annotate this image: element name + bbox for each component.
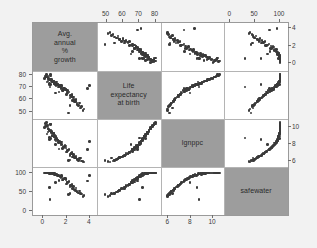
data-point bbox=[54, 181, 57, 184]
data-point bbox=[110, 34, 113, 37]
axis-tick-mark bbox=[254, 19, 255, 22]
data-point bbox=[183, 50, 186, 53]
axis-tick-label-y-lgnppc: 8 bbox=[292, 140, 296, 147]
data-point bbox=[48, 138, 51, 141]
data-point bbox=[136, 148, 139, 151]
axis-tick-mark bbox=[29, 111, 32, 112]
data-point bbox=[203, 54, 206, 57]
data-point bbox=[200, 82, 203, 85]
data-point bbox=[252, 107, 255, 110]
data-point bbox=[250, 112, 253, 115]
data-point bbox=[275, 48, 278, 51]
data-point bbox=[265, 91, 268, 94]
data-point bbox=[208, 78, 211, 81]
data-point bbox=[208, 56, 211, 59]
data-point bbox=[183, 29, 186, 32]
data-point bbox=[138, 137, 141, 140]
axis-tick-label-y-lifeexp: 80 bbox=[19, 70, 26, 77]
scatter-cell-safewater-vs-growth bbox=[224, 23, 288, 71]
axis-tick-mark bbox=[29, 172, 32, 173]
data-point bbox=[82, 109, 85, 112]
data-point bbox=[153, 123, 156, 126]
data-point bbox=[49, 75, 52, 78]
data-point bbox=[128, 44, 131, 47]
data-point bbox=[260, 83, 263, 86]
data-point bbox=[172, 189, 175, 192]
grid-line-horizontal bbox=[33, 167, 288, 168]
data-point bbox=[166, 195, 169, 198]
data-point bbox=[61, 179, 64, 182]
data-point bbox=[264, 40, 267, 43]
axis-tick-label-y-growth: 4 bbox=[292, 24, 296, 31]
axis-tick-mark bbox=[122, 19, 123, 22]
data-point bbox=[49, 123, 52, 126]
data-point bbox=[140, 27, 143, 30]
scatter-cell-growth-vs-lgnppc bbox=[33, 119, 97, 167]
data-point bbox=[86, 180, 89, 183]
data-point bbox=[123, 187, 126, 190]
data-point bbox=[46, 133, 49, 136]
data-point bbox=[218, 60, 221, 63]
scatter-cell-lgnppc-vs-growth bbox=[161, 23, 225, 71]
axis-tick-label-x-safewater: 50 bbox=[251, 10, 258, 17]
axis-tick-mark bbox=[288, 27, 291, 28]
diagonal-cell-lgnppc: lgnppc bbox=[161, 119, 225, 167]
diagonal-label-lifeexp: Life expectancy at birth bbox=[108, 82, 148, 108]
data-point bbox=[251, 159, 254, 162]
data-point bbox=[71, 151, 74, 154]
plot-region: Avg. annual % growthLife expectancy at b… bbox=[32, 22, 289, 216]
data-point bbox=[200, 54, 203, 57]
data-point bbox=[54, 92, 57, 95]
data-point bbox=[128, 40, 131, 43]
data-point bbox=[140, 174, 143, 177]
scatter-cell-lifeexp-vs-safewater bbox=[97, 167, 161, 215]
data-point bbox=[60, 174, 63, 177]
scatter-cell-safewater-vs-lifeexp bbox=[224, 71, 288, 119]
axis-tick-label-x-lifeexp: 70 bbox=[135, 10, 142, 17]
data-point bbox=[64, 144, 67, 147]
data-point bbox=[200, 173, 203, 176]
axis-tick-mark bbox=[279, 19, 280, 22]
data-point bbox=[269, 50, 272, 53]
data-point bbox=[260, 138, 263, 141]
data-point bbox=[193, 84, 196, 87]
data-point bbox=[88, 140, 91, 143]
grid-line-vertical bbox=[224, 23, 225, 215]
data-point bbox=[113, 159, 116, 162]
data-point bbox=[244, 137, 247, 140]
data-point bbox=[272, 144, 275, 147]
axis-tick-mark bbox=[288, 62, 291, 63]
data-point bbox=[218, 73, 221, 76]
data-point bbox=[131, 44, 134, 47]
data-point bbox=[130, 143, 133, 146]
axis-tick-label-x-growth: 4 bbox=[87, 218, 91, 225]
data-point bbox=[171, 107, 174, 110]
data-point bbox=[189, 92, 192, 95]
axis-tick-label-y-lifeexp: 60 bbox=[19, 95, 26, 102]
data-point bbox=[71, 93, 74, 96]
axis-tick-mark bbox=[138, 19, 139, 22]
data-point bbox=[198, 86, 201, 89]
data-point bbox=[88, 174, 91, 177]
data-point bbox=[268, 87, 271, 90]
diagonal-label-growth: Avg. annual % growth bbox=[52, 30, 78, 64]
data-point bbox=[192, 48, 195, 51]
scatter-cell-safewater-vs-lgnppc bbox=[224, 119, 288, 167]
data-point bbox=[69, 159, 72, 162]
data-point bbox=[49, 86, 52, 89]
data-point bbox=[268, 29, 271, 32]
data-point bbox=[48, 83, 51, 86]
data-point bbox=[54, 143, 57, 146]
data-point bbox=[86, 87, 89, 90]
axis-tick-mark bbox=[29, 210, 32, 211]
data-point bbox=[71, 183, 74, 186]
axis-tick-label-x-lgnppc: 8 bbox=[188, 218, 192, 225]
axis-tick-mark bbox=[155, 19, 156, 22]
data-point bbox=[193, 174, 196, 177]
data-point bbox=[154, 60, 157, 63]
axis-tick-label-y-lgnppc: 10 bbox=[292, 123, 299, 130]
data-point bbox=[183, 87, 186, 90]
axis-tick-label-y-growth: 2 bbox=[292, 41, 296, 48]
data-point bbox=[141, 186, 144, 189]
axis-tick-mark bbox=[106, 19, 107, 22]
